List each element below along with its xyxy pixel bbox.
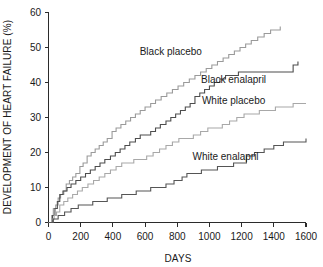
x-tick-label: 400 xyxy=(105,231,122,242)
y-tick-label: 40 xyxy=(30,77,42,88)
series-label-white-placebo: White placebo xyxy=(202,95,266,106)
x-tick-label: 1200 xyxy=(231,231,254,242)
x-axis-ticks xyxy=(49,223,307,228)
y-tick-label: 30 xyxy=(30,112,42,123)
series-line-white-enalapril xyxy=(49,139,307,223)
x-tick-label: 0 xyxy=(46,231,52,242)
y-tick-label: 50 xyxy=(30,42,42,53)
y-tick-label: 10 xyxy=(30,182,42,193)
y-tick-label: 60 xyxy=(30,7,42,18)
series-label-black-enalapril: Black enalapril xyxy=(201,74,266,85)
x-tick-label: 1400 xyxy=(263,231,286,242)
series-label-white-enalapril: White enalapril xyxy=(192,151,258,162)
x-tick-label: 1600 xyxy=(295,231,318,242)
kaplan-meier-chart: 0102030405060 02004006008001000120014001… xyxy=(0,0,323,267)
x-axis-title: DAYS xyxy=(165,253,192,264)
y-axis-ticks xyxy=(45,13,49,223)
series-annotations: Black placeboBlack enalaprilWhite placeb… xyxy=(140,46,266,162)
x-axis-tick-labels: 02004006008001000120014001600 xyxy=(46,231,318,242)
y-tick-label: 20 xyxy=(30,147,42,158)
x-tick-label: 800 xyxy=(169,231,186,242)
x-tick-label: 1000 xyxy=(198,231,221,242)
y-tick-label: 0 xyxy=(35,217,41,228)
series-label-black-placebo: Black placebo xyxy=(140,46,203,57)
y-axis-tick-labels: 0102030405060 xyxy=(30,7,42,228)
x-tick-label: 200 xyxy=(72,231,89,242)
x-tick-label: 600 xyxy=(137,231,154,242)
y-axis-title: DEVELOPMENT OF HEART FAILURE (%) xyxy=(2,20,13,214)
plot-area: 0102030405060 02004006008001000120014001… xyxy=(30,7,318,242)
chart-svg: 0102030405060 02004006008001000120014001… xyxy=(0,0,323,267)
